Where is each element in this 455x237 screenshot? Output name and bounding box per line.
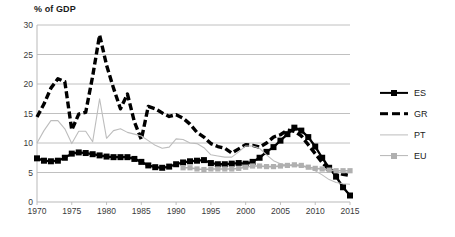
- series-marker-eu: [250, 163, 255, 168]
- series-marker-eu: [320, 166, 325, 171]
- series-marker-es: [347, 193, 353, 199]
- chart-container: % of GDP 051015202530 197019751980198519…: [0, 0, 455, 237]
- series-marker-es: [131, 156, 137, 162]
- series-marker-es: [187, 158, 193, 164]
- series-marker-eu: [333, 168, 338, 173]
- series-marker-eu: [229, 166, 234, 171]
- y-axis-title: % of GDP: [34, 4, 76, 14]
- legend-label-gr: GR: [414, 109, 428, 119]
- series-line-es: [37, 128, 350, 196]
- series-marker-eu: [264, 164, 269, 169]
- series-marker-es: [111, 154, 117, 160]
- series-marker-es: [41, 158, 47, 164]
- series-marker-eu: [299, 163, 304, 168]
- series-marker-eu: [236, 166, 241, 171]
- series-marker-es: [69, 151, 75, 157]
- series-marker-eu: [194, 166, 199, 171]
- series-marker-es: [124, 154, 130, 160]
- series-marker-es: [222, 161, 228, 167]
- series-marker-es: [55, 158, 61, 164]
- series-marker-eu: [222, 166, 227, 171]
- series-marker-es: [277, 138, 283, 144]
- series-marker-es: [138, 159, 144, 165]
- series-marker-es: [208, 160, 214, 166]
- series-marker-es: [104, 154, 110, 160]
- series-marker-es: [173, 161, 179, 167]
- legend-item-pt[interactable]: PT: [380, 124, 452, 145]
- series-marker-eu: [271, 164, 276, 169]
- series-marker-eu: [180, 165, 185, 170]
- series-marker-eu: [313, 166, 318, 171]
- series-marker-eu: [243, 165, 248, 170]
- legend-label-pt: PT: [414, 130, 426, 140]
- series-marker-eu: [201, 167, 206, 172]
- plot-svg: [37, 25, 350, 202]
- series-marker-es: [340, 184, 346, 190]
- series-marker-es: [305, 134, 311, 140]
- chart-legend: ES GR PT EU: [380, 82, 452, 166]
- series-marker-eu: [306, 165, 311, 170]
- series-marker-es: [90, 151, 96, 157]
- series-marker-es: [145, 162, 151, 168]
- series-marker-es: [194, 158, 200, 164]
- series-marker-es: [201, 157, 207, 163]
- legend-item-es[interactable]: ES: [380, 82, 452, 103]
- legend-key-eu-icon: [380, 150, 408, 162]
- x-tick-label: 2015: [341, 206, 360, 216]
- legend-label-eu: EU: [414, 151, 427, 161]
- series-marker-eu: [215, 166, 220, 171]
- series-marker-es: [34, 155, 40, 161]
- legend-item-eu[interactable]: EU: [380, 145, 452, 166]
- series-marker-eu: [187, 165, 192, 170]
- series-marker-es: [257, 155, 263, 161]
- y-tick-label: 25: [24, 50, 33, 60]
- series-marker-es: [166, 164, 172, 170]
- series-marker-es: [159, 165, 165, 171]
- series-marker-es: [215, 161, 221, 167]
- series-marker-es: [83, 150, 89, 156]
- series-marker-eu: [347, 168, 352, 173]
- x-tick-label: 1980: [97, 206, 116, 216]
- series-marker-es: [48, 158, 54, 164]
- y-tick-label: 10: [24, 138, 33, 148]
- plot-area: 051015202530 197019751980198519901995200…: [37, 25, 350, 202]
- series-marker-es: [264, 149, 270, 155]
- series-marker-eu: [278, 163, 283, 168]
- series-marker-es: [76, 149, 82, 155]
- series-marker-es: [180, 159, 186, 165]
- x-tick-label: 1970: [28, 206, 47, 216]
- series-marker-es: [236, 160, 242, 166]
- series-marker-eu: [340, 168, 345, 173]
- series-marker-eu: [327, 168, 332, 173]
- y-tick-label: 30: [24, 20, 33, 30]
- series-marker-eu: [285, 163, 290, 168]
- series-marker-es: [62, 155, 68, 161]
- series-marker-es: [270, 144, 276, 150]
- x-tick-label: 1985: [132, 206, 151, 216]
- y-tick-label: 20: [24, 79, 33, 89]
- legend-key-es-icon: [380, 87, 408, 99]
- x-tick-label: 2010: [306, 206, 325, 216]
- y-tick-label: 5: [28, 168, 33, 178]
- legend-label-es: ES: [414, 88, 426, 98]
- series-marker-eu: [292, 162, 297, 167]
- x-tick-label: 1975: [62, 206, 81, 216]
- legend-key-pt-icon: [380, 129, 408, 141]
- x-tick-label: 2005: [271, 206, 290, 216]
- series-marker-es: [152, 164, 158, 170]
- series-marker-eu: [257, 163, 262, 168]
- legend-item-gr[interactable]: GR: [380, 103, 452, 124]
- x-tick-label: 1990: [167, 206, 186, 216]
- series-marker-es: [117, 154, 123, 160]
- series-marker-eu: [208, 166, 213, 171]
- y-tick-label: 15: [24, 109, 33, 119]
- series-marker-es: [97, 152, 103, 158]
- series-marker-es: [333, 174, 339, 180]
- legend-key-gr-icon: [380, 108, 408, 120]
- x-tick-label: 2000: [236, 206, 255, 216]
- series-marker-es: [229, 161, 235, 167]
- x-tick-label: 1995: [201, 206, 220, 216]
